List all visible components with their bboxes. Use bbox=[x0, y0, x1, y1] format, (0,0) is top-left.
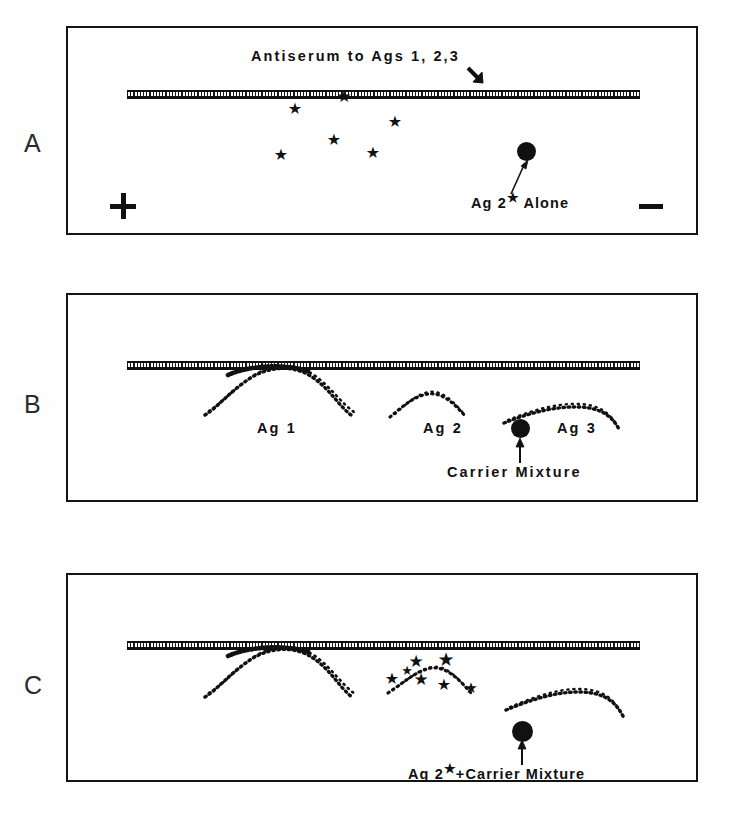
panel-letter-a: A bbox=[24, 129, 41, 158]
sample-arrow-b bbox=[68, 295, 700, 504]
sample-label-b: Carrier Mixture bbox=[447, 464, 582, 480]
sample-label-a: Ag 2★ Alone bbox=[471, 195, 569, 211]
sample-arrow-c bbox=[68, 575, 700, 784]
cathode-minus-marker bbox=[639, 204, 663, 209]
sample-arrow-a bbox=[68, 28, 700, 237]
sample-label-a-suffix: Alone bbox=[519, 195, 569, 211]
immunoelectrophoresis-figure: A Antiserum to Ags 1, 2,3 ★ ★ ★ ★ ★ ★ bbox=[0, 0, 731, 818]
sample-label-c-star: ★ bbox=[444, 761, 456, 776]
panel-b: Ag 1 Ag 2 Ag 3 Carrier Mixture bbox=[66, 293, 698, 502]
sample-label-c: Ag 2★+Carrier Mixture bbox=[408, 766, 585, 782]
sample-label-a-star: ★ bbox=[507, 190, 519, 205]
sample-label-c-prefix: Ag 2 bbox=[408, 766, 444, 782]
panel-letter-b: B bbox=[24, 390, 41, 419]
panel-a: Antiserum to Ags 1, 2,3 ★ ★ ★ ★ ★ ★ Ag 2… bbox=[66, 26, 698, 235]
anode-plus-marker bbox=[110, 193, 136, 219]
sample-label-a-prefix: Ag 2 bbox=[471, 195, 507, 211]
panel-letter-c: C bbox=[24, 671, 43, 700]
sample-label-c-suffix: +Carrier Mixture bbox=[456, 766, 585, 782]
panel-c: ★ ★ ★ ★ ★ ★ ★ Ag 2★+Carrier Mixture bbox=[66, 573, 698, 782]
